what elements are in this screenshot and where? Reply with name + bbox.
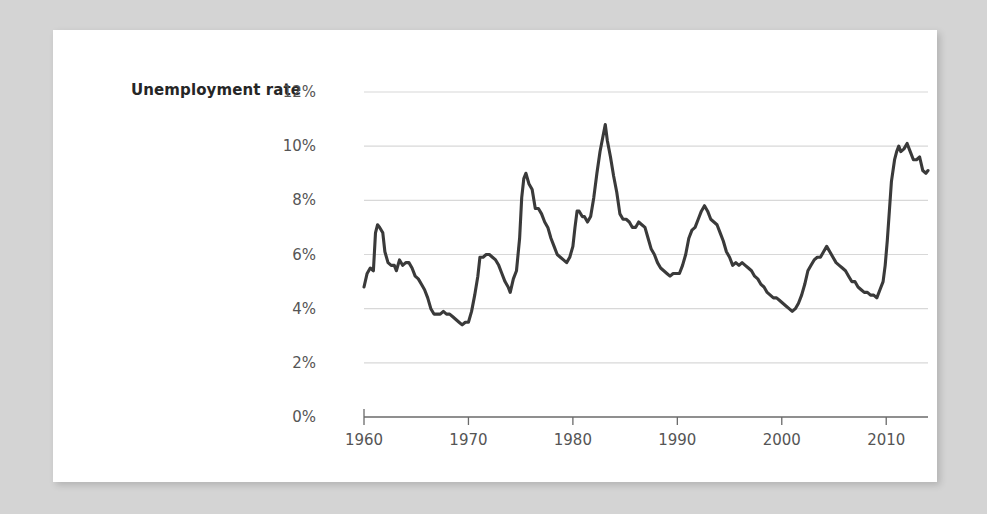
y-tick-label: 6% — [272, 246, 316, 264]
chart-area: Unemployment rate 0%2%4%6%8%10%12% 19601… — [53, 30, 937, 482]
x-axis-ticks — [364, 417, 886, 425]
x-tick-label: 1980 — [543, 431, 603, 449]
y-tick-label: 4% — [272, 300, 316, 318]
y-tick: 6% — [268, 246, 316, 264]
line-chart-plot — [53, 30, 937, 482]
x-tick-label: 1970 — [438, 431, 498, 449]
y-tick-label: 10% — [272, 137, 316, 155]
y-tick: 8% — [268, 191, 316, 209]
y-tick: 0% — [268, 408, 316, 426]
x-tick-label: 1960 — [334, 431, 394, 449]
x-tick-label: 1990 — [647, 431, 707, 449]
y-tick: 10% — [268, 137, 316, 155]
y-tick: 4% — [268, 300, 316, 318]
y-tick-label: 2% — [272, 354, 316, 372]
y-tick: 2% — [268, 354, 316, 372]
chart-card: Unemployment rate 0%2%4%6%8%10%12% 19601… — [53, 30, 937, 482]
y-tick-label: 12% — [272, 83, 316, 101]
x-tick-label: 2000 — [752, 431, 812, 449]
x-tick-label: 2010 — [856, 431, 916, 449]
y-tick-label: 0% — [272, 408, 316, 426]
axis-lines — [364, 409, 928, 417]
data-line-unemployment-rate — [364, 125, 928, 325]
y-tick: 12% — [268, 83, 316, 101]
page-root: Unemployment rate 0%2%4%6%8%10%12% 19601… — [0, 0, 987, 514]
y-tick-label: 8% — [272, 191, 316, 209]
